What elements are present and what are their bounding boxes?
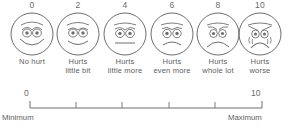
face-caption-line1: No hurt: [8, 58, 56, 67]
face-caption: Hurts even more: [148, 58, 196, 75]
face-caption: Hurts little bit: [54, 58, 102, 75]
face-caption-line2: worse: [236, 67, 284, 76]
pain-rating-scale: 0 No hurt 2: [0, 0, 288, 131]
ruler-end-number: 10: [251, 88, 260, 98]
face-option-8[interactable]: 8 Hurts whole lot: [194, 0, 242, 75]
slight-frown-face-icon: [149, 11, 195, 57]
face-number: 0: [8, 0, 56, 11]
slight-smile-face-icon: [55, 11, 101, 57]
faces-row: 0 No hurt 2: [0, 0, 288, 86]
face-number: 4: [101, 0, 149, 11]
face-number: 6: [148, 0, 196, 11]
face-caption: Hurts worse: [236, 58, 284, 75]
face-number: 8: [194, 0, 242, 11]
face-caption-line2: whole lot: [194, 67, 242, 76]
ruler-max-label: Maximum: [228, 113, 262, 123]
neutral-face-icon: [102, 11, 148, 57]
face-option-10[interactable]: 10 Hurts worse: [236, 0, 284, 75]
face-option-6[interactable]: 6 Hurts even more: [148, 0, 196, 75]
face-option-0[interactable]: 0 No hurt: [8, 0, 56, 67]
pain-ruler[interactable]: 0 10 Minimum Maximum: [0, 86, 288, 131]
face-option-2[interactable]: 2 Hurts little bit: [54, 0, 102, 75]
ruler-axis[interactable]: [0, 98, 288, 114]
crying-face-icon: [237, 11, 283, 57]
face-option-4[interactable]: 4 Hurts little more: [101, 0, 149, 75]
ruler-start-number: 0: [24, 88, 29, 98]
face-caption-line2: little more: [101, 67, 149, 76]
face-caption-line2: little bit: [54, 67, 102, 76]
frowning-face-icon: [195, 11, 241, 57]
face-caption: Hurts whole lot: [194, 58, 242, 75]
face-number: 10: [236, 0, 284, 11]
ruler-min-label: Minimum: [2, 113, 34, 123]
face-caption-line2: even more: [148, 67, 196, 76]
smiling-face-icon: [9, 11, 55, 57]
face-caption: Hurts little more: [101, 58, 149, 75]
face-number: 2: [54, 0, 102, 11]
face-caption: No hurt: [8, 58, 56, 67]
